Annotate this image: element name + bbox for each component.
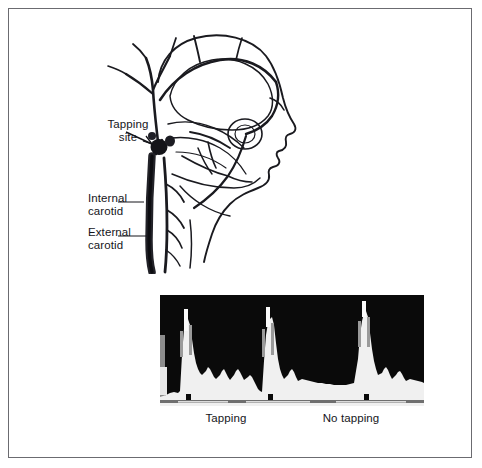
anatomy-illustration: Tappingsite Internalcarotid Externalcaro… <box>40 24 320 274</box>
label-internal-carotid: Internalcarotid <box>88 192 158 218</box>
label-tapping-site-line2: site <box>119 131 137 143</box>
head-profile-drawing <box>40 24 320 274</box>
label-internal-carotid-line1: Internal <box>88 192 127 204</box>
label-internal-carotid-line2: carotid <box>88 205 123 217</box>
figure-container: Tappingsite Internalcarotid Externalcaro… <box>0 0 482 468</box>
label-external-carotid: Externalcarotid <box>88 226 158 252</box>
caption-no-tapping: No tapping <box>302 412 400 424</box>
label-tapping-site-line1: Tapping <box>108 118 149 130</box>
label-external-carotid-line1: External <box>88 226 131 238</box>
doppler-waveform <box>160 295 424 406</box>
doppler-trace-panel <box>160 295 424 406</box>
caption-tapping: Tapping <box>180 412 272 424</box>
label-tapping-site: Tappingsite <box>98 118 158 144</box>
label-external-carotid-line2: carotid <box>88 239 123 251</box>
